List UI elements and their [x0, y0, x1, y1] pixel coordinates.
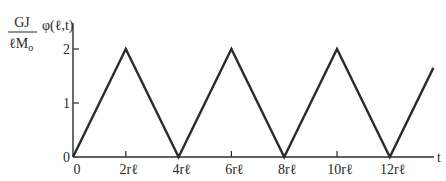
x-tick-label: 6rℓ — [225, 162, 244, 177]
x-tick-label: 10rℓ — [327, 162, 353, 177]
ylabel-denominator: ℓMo — [9, 36, 33, 53]
x-axis-label: t — [437, 150, 441, 165]
series-line — [73, 49, 433, 157]
x-tick-label: 2rℓ — [120, 162, 139, 177]
ylabel-function: φ(ℓ,t) — [42, 18, 74, 34]
series — [73, 49, 433, 157]
x-tick-label: 0 — [74, 162, 81, 177]
chart: GJ ℓMo φ(ℓ,t) t 01202rℓ4rℓ6rℓ8rℓ10rℓ12rℓ — [0, 0, 446, 181]
ylabel-denominator-sub: o — [28, 42, 33, 53]
axes: t — [73, 23, 441, 165]
x-tick-label: 8rℓ — [278, 162, 297, 177]
x-tick-label: 12rℓ — [380, 162, 406, 177]
y-tick-label: 2 — [63, 42, 70, 57]
y-tick-label: 0 — [63, 150, 70, 165]
x-tick-label: 4rℓ — [172, 162, 191, 177]
ylabel-numerator: GJ — [14, 15, 30, 30]
y-tick-label: 1 — [63, 96, 70, 111]
ylabel-denominator-main: ℓM — [9, 36, 29, 51]
